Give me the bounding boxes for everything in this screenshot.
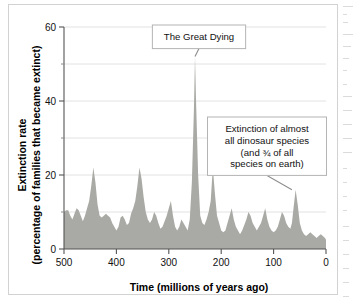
bleed-mark [343, 282, 349, 283]
x-axis-title: Time (millions of years ago) [130, 281, 269, 293]
x-tick-label: 400 [108, 257, 125, 268]
bleed-mark [343, 210, 347, 211]
bleed-mark [343, 14, 347, 15]
page-bleed-strip [341, 0, 355, 308]
y-axis-ticks: 0204060 [45, 22, 64, 255]
bleed-mark [343, 22, 348, 23]
annotation-line: (and ¾ of all [241, 147, 294, 158]
bleed-mark [343, 46, 351, 47]
bleed-mark [343, 70, 347, 71]
y-axis-title-line1: Extinction rate [16, 118, 28, 191]
x-axis-ticks: 5004003002001000 [56, 249, 330, 268]
bleed-mark [343, 84, 347, 85]
figure-card: 5004003002001000 0204060 Extinction rate… [8, 4, 338, 295]
annotation-line: The Great Dying [164, 31, 234, 42]
bleed-mark [343, 124, 352, 125]
y-tick-label: 0 [50, 244, 56, 255]
bleed-mark [343, 240, 349, 241]
annotation-line: all dinosaur species [225, 135, 309, 146]
bleed-mark [343, 296, 349, 297]
annotation-leader-line [195, 49, 199, 57]
annotation-kpg-extinction: Extinction of almostall dinosaur species… [208, 117, 327, 190]
annotation-leader-line [267, 175, 292, 189]
chart-plot-area: 5004003002001000 0204060 Extinction rate… [9, 5, 339, 296]
annotations: The Great DyingExtinction of almostall d… [152, 25, 326, 190]
bleed-mark [343, 254, 349, 255]
bleed-mark [343, 110, 352, 111]
bleed-mark [343, 268, 349, 269]
y-axis-title-line2: (percentage of families that became exti… [30, 46, 42, 265]
y-tick-label: 20 [45, 170, 57, 181]
extinction-rate-area-chart: 5004003002001000 0204060 Extinction rate… [9, 5, 339, 296]
bleed-mark [343, 196, 347, 197]
bleed-mark [343, 152, 352, 153]
annotation-line: Extinction of almost [225, 123, 309, 134]
x-tick-label: 200 [213, 257, 230, 268]
bleed-mark [343, 168, 347, 169]
bleed-mark [343, 34, 353, 35]
bleed-mark [343, 96, 352, 97]
bleed-mark [343, 138, 352, 139]
x-tick-label: 100 [265, 257, 282, 268]
x-tick-label: 500 [56, 257, 73, 268]
x-tick-label: 0 [323, 257, 329, 268]
y-tick-label: 40 [45, 96, 57, 107]
annotation-line: species on earth) [230, 158, 304, 169]
x-tick-label: 300 [160, 257, 177, 268]
bleed-mark [343, 226, 349, 227]
bleed-mark [343, 6, 353, 7]
annotation-great-dying: The Great Dying [152, 25, 245, 57]
bleed-mark [343, 182, 347, 183]
y-tick-label: 60 [45, 22, 57, 33]
bleed-mark [343, 58, 349, 59]
